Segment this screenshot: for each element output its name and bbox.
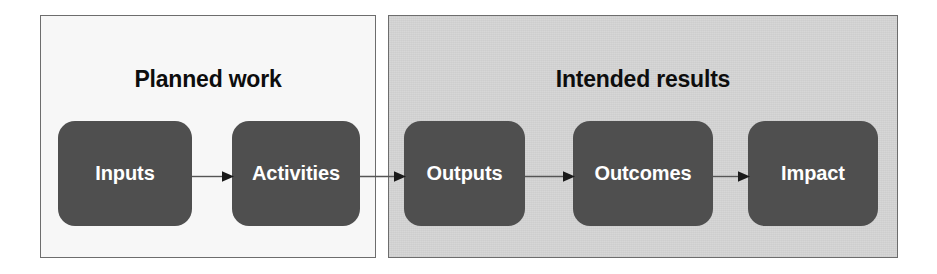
node-impact: Impact	[748, 121, 878, 226]
panel-intended-results-title: Intended results	[389, 66, 897, 93]
arrow-right-icon-inputs-to-activities	[192, 170, 234, 183]
node-outputs-label: Outputs	[427, 162, 503, 185]
panel-planned-work-title: Planned work	[41, 66, 375, 93]
logic-model-diagram: Planned work Intended results Inputs Act…	[0, 0, 937, 274]
node-outputs: Outputs	[404, 121, 525, 226]
node-outcomes-label: Outcomes	[594, 162, 691, 185]
arrow-right-icon-outputs-to-outcomes	[525, 170, 575, 183]
arrow-right-icon-activities-to-outputs	[360, 170, 406, 183]
node-outcomes: Outcomes	[573, 121, 713, 226]
node-inputs: Inputs	[58, 121, 192, 226]
node-activities-label: Activities	[252, 162, 340, 185]
node-impact-label: Impact	[781, 162, 845, 185]
node-inputs-label: Inputs	[95, 162, 154, 185]
node-activities: Activities	[232, 121, 360, 226]
arrow-right-icon-outcomes-to-impact	[713, 170, 750, 183]
